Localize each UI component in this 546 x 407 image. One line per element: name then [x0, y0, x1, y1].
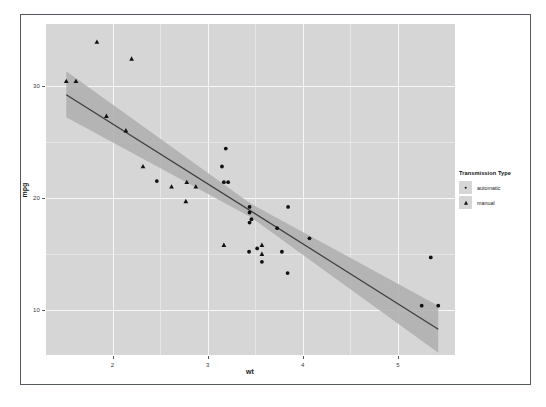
y-tick-label: 20: [16, 195, 40, 201]
data-layer: [46, 24, 455, 355]
data-point-automatic: [248, 221, 252, 225]
data-point-automatic: [250, 217, 254, 221]
data-point-automatic: [286, 271, 290, 275]
legend-key-circle-icon: [459, 181, 472, 194]
x-tick-label: 4: [301, 362, 305, 368]
x-tick-mark: [208, 356, 209, 359]
data-point-automatic: [248, 205, 252, 209]
legend-item-automatic[interactable]: automatic: [459, 181, 525, 194]
data-point-automatic: [155, 179, 159, 183]
data-point-automatic: [220, 165, 224, 169]
data-point-manual: [141, 164, 146, 168]
data-point-automatic: [436, 304, 440, 308]
data-point-manual: [183, 199, 188, 203]
data-point-automatic: [248, 211, 252, 215]
x-tick-label: 5: [396, 362, 400, 368]
y-tick-label: 10: [16, 307, 40, 313]
y-tick-mark: [42, 310, 45, 311]
data-point-automatic: [420, 304, 424, 308]
x-tick-mark: [303, 356, 304, 359]
data-point-manual: [260, 243, 265, 247]
legend-item-manual[interactable]: manual: [459, 196, 525, 209]
data-point-automatic: [275, 226, 279, 230]
y-tick-label: 30: [16, 83, 40, 89]
x-tick-mark: [113, 356, 114, 359]
legend: Transmission Type automatic manual: [459, 170, 525, 211]
y-tick-mark: [42, 86, 45, 87]
data-point-automatic: [286, 205, 290, 209]
regression-line: [66, 95, 438, 330]
data-point-automatic: [224, 147, 228, 151]
legend-key-triangle-icon: [459, 196, 472, 209]
data-point-manual: [169, 184, 174, 188]
legend-title: Transmission Type: [459, 170, 525, 176]
data-point-manual: [221, 243, 226, 247]
legend-label-manual: manual: [477, 200, 495, 206]
data-point-automatic: [226, 180, 230, 184]
legend-label-automatic: automatic: [477, 185, 500, 191]
chart-canvas: mpg wt 1020302345 Transmission Type auto…: [0, 0, 546, 407]
x-tick-label: 3: [206, 362, 210, 368]
data-point-automatic: [308, 236, 312, 240]
data-point-automatic: [280, 250, 284, 254]
y-tick-mark: [42, 198, 45, 199]
data-point-manual: [260, 252, 265, 256]
x-tick-mark: [398, 356, 399, 359]
data-point-automatic: [260, 260, 264, 264]
data-point-automatic: [255, 247, 259, 251]
data-point-automatic: [429, 255, 433, 259]
x-axis-label: wt: [246, 368, 254, 375]
data-point-manual: [129, 56, 134, 60]
data-point-manual: [95, 39, 100, 43]
data-point-automatic: [247, 250, 251, 254]
data-point-automatic: [222, 180, 226, 184]
x-tick-label: 2: [111, 362, 115, 368]
plot-panel: [46, 24, 455, 355]
